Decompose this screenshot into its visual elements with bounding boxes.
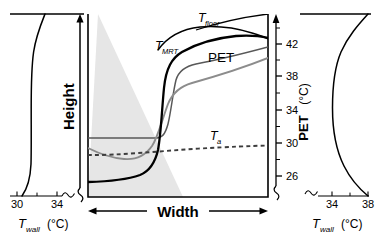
pet-axis-title: PET (°C) xyxy=(296,83,311,140)
width-axis: Width xyxy=(88,202,268,220)
left-axis-title: T wall (°C) xyxy=(18,216,68,234)
width-axis-label: Width xyxy=(157,203,199,220)
label-tmrt: T MRT xyxy=(155,39,180,56)
width-arrow-head-right xyxy=(260,207,269,214)
right-axis-title-unit: (°C) xyxy=(341,217,362,231)
left-axis-title-sub: wall xyxy=(26,225,40,234)
pet-value-axis: 42 38 34 30 26 PET (°C) xyxy=(273,14,311,200)
right-axis-title-sub: wall xyxy=(320,225,334,234)
width-arrow-head-left xyxy=(88,207,97,214)
right-wall-panel: 34 38 T wall (°C) xyxy=(300,14,374,234)
height-axis-label: Height xyxy=(60,83,77,130)
pet-tick-label-38: 38 xyxy=(286,70,298,82)
pet-tick-label-26: 26 xyxy=(286,170,298,182)
pet-tick-label-42: 42 xyxy=(286,38,298,50)
right-axis-title: T wall (°C) xyxy=(312,216,362,234)
figure-svg: 30 34 T wall (°C) xyxy=(0,0,379,245)
sun-shadow-cone xyxy=(88,14,183,197)
pet-axis-title-unit: (°C) xyxy=(297,83,311,104)
left-axis-title-unit: (°C) xyxy=(47,217,68,231)
label-ta-sub: a xyxy=(217,137,221,146)
left-axis-break-icon xyxy=(62,193,75,197)
label-pet: PET xyxy=(208,50,234,65)
pet-axis-title-main: PET xyxy=(296,115,311,140)
label-tfloor-sub: floor xyxy=(205,19,220,28)
left-tick-label-30: 30 xyxy=(11,198,23,210)
right-tick-label-34: 34 xyxy=(326,198,338,210)
canyon-panel: T floor T MRT PET T a Height Width xyxy=(60,11,268,220)
height-arrow-head xyxy=(76,14,83,23)
label-ta: T a xyxy=(210,129,221,146)
height-axis-break-icon xyxy=(78,188,83,202)
right-axis-break-icon xyxy=(305,191,318,195)
right-tick-label-38: 38 xyxy=(362,198,374,210)
height-axis: Height xyxy=(60,14,84,202)
shadow-cone-fill xyxy=(88,14,183,197)
pet-axis-arrow-head xyxy=(273,14,280,23)
right-wall-temperature-curve xyxy=(333,14,369,196)
pet-axis-break-icon xyxy=(274,186,279,200)
label-tmrt-sub: MRT xyxy=(162,47,180,56)
label-tfloor: T floor xyxy=(198,11,220,28)
left-tick-label-34: 34 xyxy=(51,198,63,210)
pet-tick-label-34: 34 xyxy=(286,104,298,116)
figure-root: 30 34 T wall (°C) xyxy=(0,0,379,245)
left-wall-temperature-curve xyxy=(22,14,45,196)
